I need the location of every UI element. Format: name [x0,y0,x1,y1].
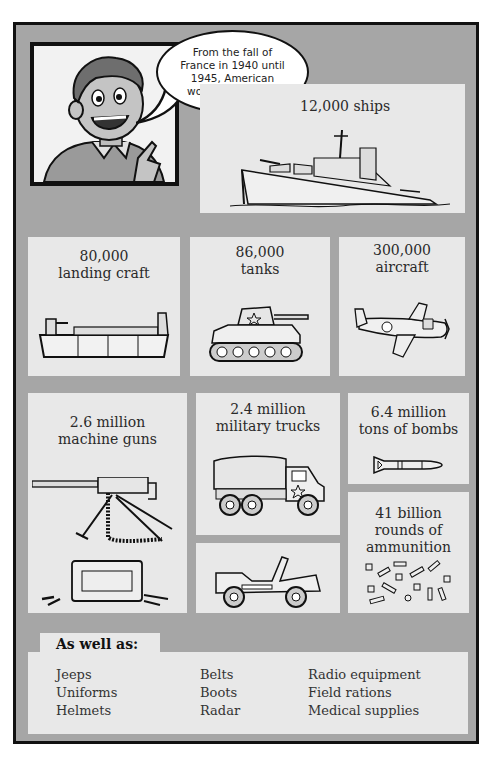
ship-icon [230,120,450,210]
ammunition-icon [364,558,456,606]
also-column-1: Jeeps Uniforms Helmets [56,666,117,720]
trucks-label: 2.4 million military trucks [196,401,340,435]
panel-landing-craft: 80,000 landing craft [28,237,180,376]
also-item: Medical supplies [308,702,421,720]
panel-ships: 12,000 ships [200,84,465,213]
panel-trucks: 2.4 million military trucks [196,393,340,535]
also-item: Uniforms [56,684,117,702]
also-item: Field rations [308,684,421,702]
panel-aircraft: 300,000 aircraft [339,237,465,376]
panel-jeep [196,543,340,613]
jeep-icon [212,553,324,609]
also-column-2: Belts Boots Radar [200,666,240,720]
also-heading: As well as: [56,636,138,652]
landing-craft-icon [38,309,170,361]
also-item: Helmets [56,702,117,720]
panel-ammunition: 41 billion rounds of ammunition [348,492,469,613]
panel-bombs: 6.4 million tons of bombs [348,393,469,484]
aircraft-icon [353,301,453,359]
tank-icon [208,303,318,365]
panel-tanks: 86,000 tanks [190,237,330,376]
tanks-label: 86,000 tanks [190,244,330,278]
bombs-label: 6.4 million tons of bombs [348,404,469,438]
ammo-box-icon [40,559,180,609]
truck-icon [212,453,332,519]
bomb-icon [372,455,444,475]
ships-label: 12,000 ships [300,98,465,115]
machine-guns-label: 2.6 million machine guns [28,414,187,448]
also-item: Boots [200,684,240,702]
aircraft-label: 300,000 aircraft [339,242,465,276]
machine-gun-icon [32,477,184,549]
also-item: Radar [200,702,240,720]
also-list-box: Jeeps Uniforms Helmets Belts Boots Radar… [28,652,468,734]
also-column-3: Radio equipment Field rations Medical su… [308,666,421,720]
panel-machine-guns: 2.6 million machine guns [28,393,187,613]
landing-craft-label: 80,000 landing craft [28,248,180,282]
also-item: Radio equipment [308,666,421,684]
ammunition-label: 41 billion rounds of ammunition [348,505,469,556]
also-item: Jeeps [56,666,117,684]
also-item: Belts [200,666,240,684]
